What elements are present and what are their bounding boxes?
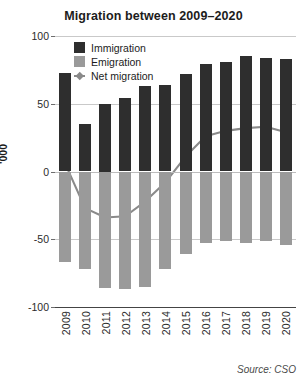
x-tick-label-2010: 2010 (80, 311, 92, 335)
bar-emigration (119, 172, 131, 290)
bar-immigration (99, 104, 111, 172)
bar-emigration (240, 172, 252, 244)
legend-item-immigration: Immigration (74, 41, 153, 54)
x-tick-label-2018: 2018 (240, 311, 252, 335)
x-tick-label-2016: 2016 (200, 311, 212, 335)
bar-immigration (159, 85, 171, 172)
bar-immigration (260, 58, 272, 172)
bar-immigration (240, 56, 252, 171)
x-tick-label-2015: 2015 (180, 311, 192, 335)
y-tick-label: -100 (7, 301, 49, 313)
bar-emigration (180, 172, 192, 255)
legend-item-net-migration: Net migration (74, 69, 153, 82)
gridline-100 (55, 36, 296, 37)
bar-emigration (200, 172, 212, 244)
bar-emigration (280, 172, 292, 245)
x-tick-label-2012: 2012 (120, 311, 132, 335)
x-tick-label-2011: 2011 (100, 311, 112, 334)
x-tick-label-2013: 2013 (140, 311, 152, 335)
bar-emigration (59, 172, 71, 263)
x-axis: 2009201020112012201320142015201620172018… (55, 311, 296, 361)
bar-emigration (159, 172, 171, 270)
bar-immigration (59, 73, 71, 172)
chart-legend: Immigration Emigration Net migration (74, 41, 153, 82)
y-axis-title: '000 (0, 144, 9, 164)
legend-label-immigration: Immigration (91, 42, 146, 54)
bar-immigration (280, 59, 292, 171)
x-tick-label-2017: 2017 (220, 311, 232, 335)
y-axis: 100500-50-100 (0, 0, 49, 383)
legend-label-emigration: Emigration (91, 56, 141, 68)
legend-swatch-immigration-icon (74, 42, 85, 53)
bar-emigration (79, 172, 91, 270)
gridline-neg100 (55, 307, 296, 308)
bar-immigration (119, 98, 131, 171)
bar-immigration (139, 86, 151, 171)
bar-emigration (139, 172, 151, 287)
y-tick-label: -50 (7, 233, 49, 245)
legend-item-emigration: Emigration (74, 55, 153, 68)
y-tick-label: 0 (7, 166, 49, 178)
bar-immigration (220, 62, 232, 172)
x-tick-label-2019: 2019 (260, 311, 272, 335)
migration-chart: Migration between 2009–2020 100500-50-10… (0, 0, 307, 383)
legend-line-marker-icon (74, 70, 85, 81)
bar-immigration (180, 74, 192, 172)
bar-emigration (99, 172, 111, 289)
bar-immigration (79, 124, 91, 171)
source-note: Source: CSO (237, 364, 296, 375)
bar-immigration (200, 64, 212, 171)
y-tick-label: 100 (7, 30, 49, 42)
legend-swatch-emigration-icon (74, 56, 85, 67)
x-tick-label-2009: 2009 (60, 311, 72, 335)
x-tick-label-2020: 2020 (280, 311, 292, 335)
x-tick-label-2014: 2014 (160, 311, 172, 335)
bar-emigration (220, 172, 232, 241)
legend-label-net-migration: Net migration (91, 70, 153, 82)
y-tick-label: 50 (7, 98, 49, 110)
bar-emigration (260, 172, 272, 241)
